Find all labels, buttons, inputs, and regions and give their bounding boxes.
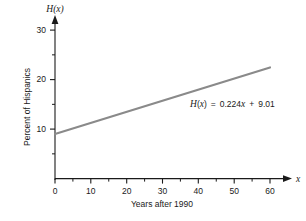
x-axis-symbol-label: x (295, 174, 301, 184)
x-axis-title: Years after 1990 (131, 199, 193, 209)
x-tick-label-50: 50 (229, 186, 239, 196)
svg-text:H(x)=0.224x+9.01: H(x)=0.224x+9.01 (189, 99, 275, 109)
x-tick-label-30: 30 (158, 186, 168, 196)
equation-paren-close: ) (204, 99, 207, 109)
y-major-ticks (50, 30, 55, 129)
chart-figure: 30 20 10 0 10 20 30 40 50 60 H(x) x Year… (0, 0, 306, 221)
y-tick-label-10: 10 (37, 124, 47, 134)
equation-equals: = (211, 99, 216, 109)
x-tick-label-10: 10 (86, 186, 96, 196)
line-chart-svg: 30 20 10 0 10 20 30 40 50 60 H(x) x Year… (0, 0, 306, 221)
equation-plus: + (249, 99, 254, 109)
y-axis-title: Percent of Hispanics (22, 68, 32, 146)
equation-coefficient: 0.224 (220, 99, 242, 109)
x-tick-label-0: 0 (53, 186, 58, 196)
x-axis-arrow-icon (283, 175, 292, 182)
y-tick-label-20: 20 (37, 74, 47, 84)
equation-constant: 9.01 (258, 99, 275, 109)
y-tick-label-30: 30 (37, 25, 47, 35)
x-tick-label-40: 40 (194, 186, 204, 196)
equation-annotation: H(x)=0.224x+9.01 (189, 99, 275, 109)
x-tick-label-20: 20 (122, 186, 132, 196)
y-axis-arrow-icon (52, 15, 59, 24)
equation-coef-var: x (240, 99, 246, 109)
y-axis-symbol-label: H(x) (45, 4, 63, 15)
x-tick-label-60: 60 (265, 186, 275, 196)
x-major-ticks (55, 179, 270, 184)
